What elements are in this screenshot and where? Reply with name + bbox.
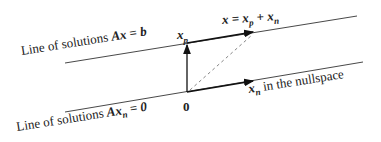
- label-origin: 0: [183, 100, 190, 113]
- vector-xn-arrow: [187, 81, 253, 92]
- vector-x-arrow: [187, 32, 253, 43]
- label-xp: xp: [177, 28, 188, 45]
